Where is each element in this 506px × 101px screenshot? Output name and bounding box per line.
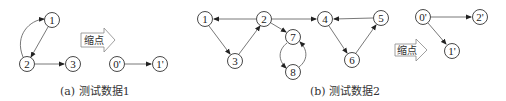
node-b-0prime: 0': [416, 10, 431, 25]
node-b-4: 4: [318, 12, 333, 27]
svg-text:1': 1': [156, 58, 164, 70]
node-b-2: 2: [257, 12, 272, 27]
caption-b: (b) 测试数据2: [310, 82, 380, 98]
edge-0p-to-1p-b: [428, 23, 446, 44]
node-b-5: 5: [374, 11, 389, 26]
svg-text:2: 2: [24, 58, 30, 70]
svg-text:缩点: 缩点: [84, 34, 104, 46]
svg-text:缩点: 缩点: [397, 44, 417, 56]
svg-text:3: 3: [232, 55, 238, 67]
svg-text:2': 2': [476, 11, 484, 23]
node-a-1prime: 1': [153, 57, 168, 72]
node-b-3: 3: [228, 54, 243, 69]
node-b-8: 8: [286, 65, 301, 80]
node-a-0prime: 0': [110, 57, 125, 72]
contract-arrow-b: 缩点: [395, 39, 427, 61]
svg-text:1: 1: [49, 14, 55, 26]
svg-text:0': 0': [113, 58, 121, 70]
node-a-3: 3: [66, 57, 81, 72]
node-b-1prime: 1': [445, 44, 460, 59]
node-b-1: 1: [198, 12, 213, 27]
caption-a: (a) 测试数据1: [60, 82, 130, 98]
diagram-b: 1 2 3 4 5 6 7 8: [198, 10, 488, 80]
svg-text:4: 4: [322, 13, 328, 25]
node-b-7: 7: [286, 30, 301, 45]
edge-5-to-4: [334, 18, 373, 19]
svg-text:7: 7: [290, 31, 296, 43]
node-a-1: 1: [45, 13, 60, 28]
svg-text:6: 6: [349, 54, 355, 66]
svg-text:8: 8: [290, 66, 296, 78]
svg-text:5: 5: [378, 12, 384, 24]
edge-2-to-7: [271, 23, 286, 32]
contract-arrow-a: 缩点: [81, 28, 115, 52]
edge-7-to-8: [280, 43, 287, 68]
edge-1-to-3: [209, 26, 230, 54]
svg-text:2: 2: [261, 13, 267, 25]
svg-text:0': 0': [419, 11, 427, 23]
node-b-2prime: 2': [473, 10, 488, 25]
svg-text:3: 3: [70, 58, 76, 70]
diagram-a: 1 2 3 缩点 0' 1': [20, 13, 168, 72]
svg-text:1': 1': [448, 45, 456, 57]
svg-text:1: 1: [202, 13, 208, 25]
node-b-6: 6: [345, 53, 360, 68]
edge-2-to-1: [20, 19, 44, 57]
edge-1-to-2: [31, 27, 48, 57]
edge-4-to-6: [329, 26, 347, 53]
edge-8-to-7: [299, 42, 306, 67]
edge-6-to-5: [356, 25, 376, 53]
node-a-2: 2: [20, 57, 35, 72]
edge-3-to-2: [239, 26, 260, 54]
